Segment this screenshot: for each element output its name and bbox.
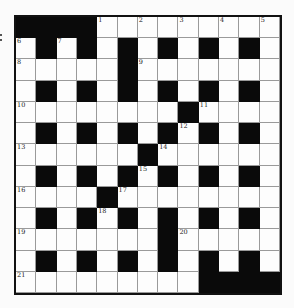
grid-cell[interactable] (178, 251, 198, 272)
grid-cell[interactable] (239, 144, 259, 165)
grid-cell[interactable] (97, 102, 117, 123)
grid-cell[interactable] (219, 229, 239, 250)
grid-cell[interactable]: 19 (16, 229, 36, 250)
grid-cell[interactable] (16, 208, 36, 229)
grid-cell[interactable] (138, 123, 158, 144)
grid-cell[interactable]: 5 (260, 17, 280, 38)
grid-cell[interactable] (199, 229, 219, 250)
grid-cell[interactable]: 7 (57, 38, 77, 59)
grid-cell[interactable] (97, 144, 117, 165)
grid-cell[interactable] (118, 272, 138, 293)
grid-cell[interactable] (138, 229, 158, 250)
grid-cell[interactable] (118, 102, 138, 123)
grid-cell[interactable] (97, 166, 117, 187)
grid-cell[interactable] (97, 59, 117, 80)
grid-cell[interactable] (97, 229, 117, 250)
grid-cell[interactable] (219, 81, 239, 102)
grid-cell[interactable] (97, 272, 117, 293)
grid-cell[interactable] (77, 187, 97, 208)
grid-cell[interactable] (260, 81, 280, 102)
grid-cell[interactable]: 2 (138, 17, 158, 38)
grid-cell[interactable]: 11 (199, 102, 219, 123)
grid-cell[interactable] (57, 229, 77, 250)
grid-cell[interactable] (178, 208, 198, 229)
grid-cell[interactable] (178, 187, 198, 208)
grid-cell[interactable]: 15 (138, 166, 158, 187)
grid-cell[interactable] (260, 208, 280, 229)
grid-cell[interactable] (178, 144, 198, 165)
grid-cell[interactable] (260, 123, 280, 144)
grid-cell[interactable] (260, 38, 280, 59)
grid-cell[interactable]: 13 (16, 144, 36, 165)
grid-cell[interactable] (219, 144, 239, 165)
grid-cell[interactable] (219, 102, 239, 123)
grid-cell[interactable] (260, 102, 280, 123)
grid-cell[interactable] (158, 59, 178, 80)
grid-cell[interactable] (199, 59, 219, 80)
grid-cell[interactable] (77, 59, 97, 80)
grid-cell[interactable] (97, 81, 117, 102)
grid-cell[interactable] (97, 38, 117, 59)
grid-cell[interactable] (118, 229, 138, 250)
grid-cell[interactable] (97, 123, 117, 144)
grid-cell[interactable] (138, 251, 158, 272)
grid-cell[interactable] (36, 144, 56, 165)
grid-cell[interactable] (57, 166, 77, 187)
grid-cell[interactable] (178, 166, 198, 187)
grid-cell[interactable] (260, 251, 280, 272)
grid-cell[interactable] (97, 251, 117, 272)
grid-cell[interactable] (138, 81, 158, 102)
grid-cell[interactable] (138, 187, 158, 208)
grid-cell[interactable]: 20 (178, 229, 198, 250)
grid-cell[interactable] (57, 123, 77, 144)
grid-cell[interactable] (239, 187, 259, 208)
grid-cell[interactable] (219, 208, 239, 229)
grid-cell[interactable] (219, 166, 239, 187)
grid-cell[interactable] (57, 81, 77, 102)
grid-cell[interactable]: 18 (97, 208, 117, 229)
grid-cell[interactable] (219, 251, 239, 272)
grid-cell[interactable] (57, 251, 77, 272)
grid-cell[interactable] (57, 144, 77, 165)
grid-cell[interactable] (158, 187, 178, 208)
grid-cell[interactable] (77, 229, 97, 250)
grid-cell[interactable] (158, 17, 178, 38)
grid-cell[interactable]: 8 (16, 59, 36, 80)
grid-cell[interactable] (219, 59, 239, 80)
grid-cell[interactable] (219, 38, 239, 59)
grid-cell[interactable] (138, 208, 158, 229)
grid-cell[interactable] (239, 229, 259, 250)
grid-cell[interactable]: 16 (16, 187, 36, 208)
grid-cell[interactable] (16, 123, 36, 144)
grid-cell[interactable]: 14 (158, 144, 178, 165)
grid-cell[interactable] (260, 144, 280, 165)
grid-cell[interactable] (118, 17, 138, 38)
grid-cell[interactable] (36, 59, 56, 80)
grid-cell[interactable] (138, 272, 158, 293)
grid-cell[interactable] (36, 187, 56, 208)
grid-cell[interactable]: 4 (219, 17, 239, 38)
grid-cell[interactable] (77, 102, 97, 123)
grid-cell[interactable] (57, 272, 77, 293)
grid-cell[interactable] (239, 17, 259, 38)
grid-cell[interactable]: 10 (16, 102, 36, 123)
grid-cell[interactable] (158, 272, 178, 293)
grid-cell[interactable] (36, 272, 56, 293)
grid-cell[interactable]: 17 (118, 187, 138, 208)
grid-cell[interactable] (138, 102, 158, 123)
grid-cell[interactable]: 1 (97, 17, 117, 38)
grid-cell[interactable]: 9 (138, 59, 158, 80)
grid-cell[interactable] (57, 59, 77, 80)
grid-cell[interactable] (77, 272, 97, 293)
grid-cell[interactable] (199, 144, 219, 165)
grid-cell[interactable] (178, 59, 198, 80)
grid-cell[interactable] (178, 81, 198, 102)
grid-cell[interactable]: 6 (16, 38, 36, 59)
grid-cell[interactable] (57, 208, 77, 229)
grid-cell[interactable] (199, 187, 219, 208)
grid-cell[interactable] (239, 59, 259, 80)
grid-cell[interactable] (260, 229, 280, 250)
grid-cell[interactable] (178, 272, 198, 293)
grid-cell[interactable] (138, 38, 158, 59)
grid-cell[interactable] (260, 59, 280, 80)
